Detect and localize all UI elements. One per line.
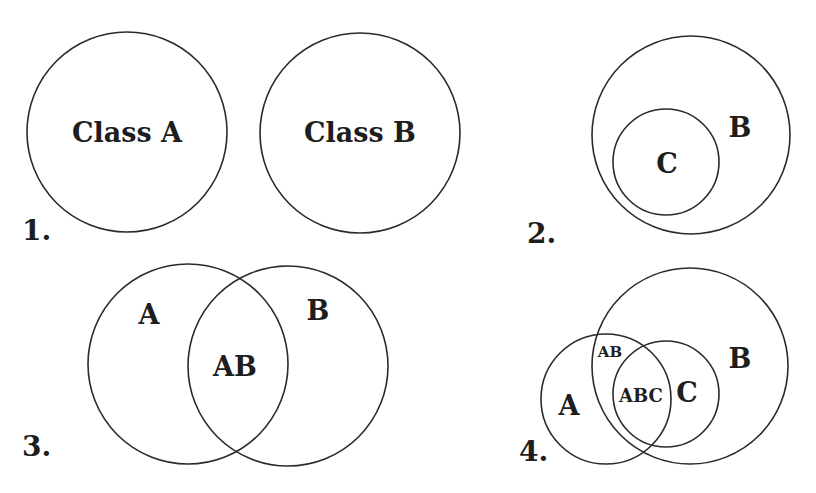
label-b: B: [307, 295, 330, 326]
panel-1: Class A Class B 1.: [22, 32, 460, 247]
label-c: C: [656, 148, 678, 179]
panel-number-4: 4.: [519, 435, 548, 468]
label-ab: AB: [212, 351, 257, 382]
label-abc: ABC: [618, 385, 663, 406]
venn-diagrams: Class A Class B 1. B C 2. A B AB 3. B A …: [0, 0, 816, 493]
panel-2: B C 2.: [527, 36, 790, 250]
label-a: A: [558, 390, 581, 421]
label-class-b: Class B: [304, 117, 416, 148]
circle-b: [592, 36, 790, 234]
panel-number-2: 2.: [527, 217, 556, 250]
label-b: B: [729, 343, 752, 374]
panel-4: B A C AB ABC 4.: [519, 268, 788, 468]
label-a: A: [138, 299, 161, 330]
panel-3: A B AB 3.: [22, 264, 388, 466]
panel-number-1: 1.: [22, 214, 51, 247]
label-class-a: Class A: [72, 117, 183, 148]
label-c: C: [676, 377, 698, 408]
label-ab: AB: [597, 343, 622, 361]
label-b: B: [729, 112, 752, 143]
panel-number-3: 3.: [22, 430, 51, 463]
